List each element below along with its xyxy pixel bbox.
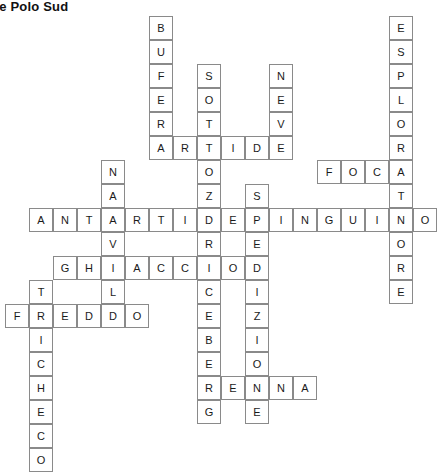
crossword-cell[interactable]: R [389, 136, 413, 160]
crossword-cell[interactable]: R [29, 304, 53, 328]
crossword-cell[interactable]: D [77, 304, 101, 328]
crossword-cell[interactable]: C [149, 256, 173, 280]
crossword-cell[interactable]: O [197, 88, 221, 112]
crossword-cell[interactable]: E [245, 232, 269, 256]
crossword-cell[interactable]: T [389, 184, 413, 208]
crossword-cell[interactable]: O [221, 256, 245, 280]
crossword-cell[interactable]: E [197, 352, 221, 376]
crossword-cell[interactable]: O [389, 232, 413, 256]
crossword-cell[interactable]: A [101, 208, 125, 232]
crossword-cell[interactable]: H [29, 376, 53, 400]
crossword-cell[interactable]: U [149, 40, 173, 64]
crossword-cell[interactable]: N [245, 376, 269, 400]
crossword-cell[interactable]: O [389, 112, 413, 136]
crossword-cell[interactable]: R [389, 256, 413, 280]
crossword-cell[interactable]: O [245, 352, 269, 376]
crossword-cell[interactable]: O [197, 160, 221, 184]
crossword-cell[interactable]: I [245, 328, 269, 352]
crossword-cell[interactable]: A [293, 376, 317, 400]
crossword-cell[interactable]: E [197, 304, 221, 328]
crossword-cell[interactable]: E [53, 304, 77, 328]
crossword-cell[interactable]: E [149, 88, 173, 112]
crossword-cell[interactable]: L [101, 280, 125, 304]
crossword-cell[interactable]: I [365, 208, 389, 232]
crossword-cell[interactable]: T [77, 208, 101, 232]
crossword-cell[interactable]: N [269, 64, 293, 88]
crossword-cell[interactable]: R [173, 136, 197, 160]
crossword-cell[interactable]: F [5, 304, 29, 328]
crossword-cell[interactable]: N [53, 208, 77, 232]
crossword-cell[interactable]: F [149, 64, 173, 88]
crossword-cell[interactable]: C [173, 256, 197, 280]
crossword-cell[interactable]: E [221, 376, 245, 400]
crossword-cell[interactable]: I [101, 256, 125, 280]
crossword-cell[interactable]: I [197, 256, 221, 280]
crossword-cell[interactable]: O [341, 160, 365, 184]
crossword-cell[interactable]: N [293, 208, 317, 232]
crossword-cell[interactable]: G [53, 256, 77, 280]
crossword-cell[interactable]: A [125, 256, 149, 280]
crossword-cell[interactable]: D [197, 208, 221, 232]
crossword-cell[interactable]: S [197, 64, 221, 88]
crossword-cell[interactable]: C [197, 280, 221, 304]
crossword-cell[interactable]: N [101, 160, 125, 184]
crossword-cell[interactable]: D [245, 256, 269, 280]
crossword-cell[interactable]: R [197, 232, 221, 256]
crossword-cell[interactable]: V [269, 112, 293, 136]
crossword-cell[interactable]: L [389, 88, 413, 112]
crossword-cell[interactable]: A [389, 160, 413, 184]
crossword-cell[interactable]: S [245, 184, 269, 208]
crossword-cell[interactable]: T [149, 208, 173, 232]
crossword-cell[interactable]: P [245, 208, 269, 232]
crossword-cell[interactable]: I [269, 208, 293, 232]
crossword-cell[interactable]: D [101, 304, 125, 328]
crossword-cell[interactable]: N [269, 376, 293, 400]
crossword-cell[interactable]: T [29, 280, 53, 304]
crossword-cell[interactable]: Z [245, 304, 269, 328]
crossword-cell[interactable]: A [101, 184, 125, 208]
crossword-cell[interactable]: F [317, 160, 341, 184]
crossword-cell[interactable]: E [269, 88, 293, 112]
crossword-cell[interactable]: A [149, 136, 173, 160]
crossword-cell[interactable]: I [173, 208, 197, 232]
crossword-cell[interactable]: N [389, 208, 413, 232]
crossword-cell[interactable]: C [29, 424, 53, 448]
crossword-cell[interactable]: E [29, 400, 53, 424]
crossword-cell[interactable]: C [365, 160, 389, 184]
crossword-cell[interactable]: T [197, 136, 221, 160]
crossword-cell[interactable]: P [389, 64, 413, 88]
crossword-cell[interactable]: A [29, 208, 53, 232]
crossword-cell[interactable]: S [389, 40, 413, 64]
crossword-cell[interactable]: G [197, 400, 221, 424]
crossword-cell[interactable]: R [149, 112, 173, 136]
crossword-cell[interactable]: V [101, 232, 125, 256]
crossword-cell[interactable]: H [77, 256, 101, 280]
crossword-cell[interactable]: D [245, 136, 269, 160]
crossword-cell[interactable]: O [413, 208, 437, 232]
crossword-cell[interactable]: G [317, 208, 341, 232]
crossword-cell[interactable]: B [197, 328, 221, 352]
crossword-cell[interactable]: O [29, 448, 53, 472]
crossword-cell[interactable]: E [389, 280, 413, 304]
crossword-cell[interactable]: E [269, 136, 293, 160]
crossword-cell[interactable]: B [149, 16, 173, 40]
crossword-cell[interactable]: I [29, 328, 53, 352]
crossword-cell[interactable]: E [389, 16, 413, 40]
crossword-cell[interactable]: E [245, 400, 269, 424]
crossword-cell[interactable]: O [125, 304, 149, 328]
crossword-cell[interactable]: E [221, 208, 245, 232]
crossword-cell[interactable]: Z [197, 184, 221, 208]
crossword-cell[interactable]: I [245, 280, 269, 304]
crossword-cell[interactable]: I [221, 136, 245, 160]
crossword-cell[interactable]: U [341, 208, 365, 232]
crossword-cell[interactable]: R [125, 208, 149, 232]
crossword-cell[interactable]: T [197, 112, 221, 136]
crossword-cell[interactable]: R [197, 376, 221, 400]
crossword-cell[interactable]: C [29, 352, 53, 376]
